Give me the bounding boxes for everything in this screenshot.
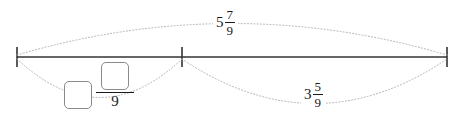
known-part-whole-number: 3 — [304, 87, 313, 102]
number-line-diagram: 5 7 9 3 5 9 9 — [0, 0, 467, 127]
total-whole-number: 5 — [216, 15, 225, 30]
total-numerator: 7 — [225, 8, 236, 22]
fraction-field: 9 — [96, 62, 134, 109]
known-part-label: 3 5 9 — [301, 80, 326, 109]
total-fraction: 7 9 — [225, 8, 236, 37]
known-part-numerator: 5 — [313, 80, 324, 94]
numerator-input[interactable] — [101, 62, 129, 90]
denominator-value: 9 — [111, 94, 119, 109]
total-label: 5 7 9 — [213, 8, 238, 37]
known-part-fraction: 5 9 — [313, 80, 324, 109]
mixed-number-answer: 9 — [64, 62, 134, 109]
whole-number-input[interactable] — [64, 81, 92, 109]
known-part-denominator: 9 — [313, 95, 324, 109]
total-denominator: 9 — [225, 23, 236, 37]
whole-number-field-wrap — [64, 81, 92, 109]
